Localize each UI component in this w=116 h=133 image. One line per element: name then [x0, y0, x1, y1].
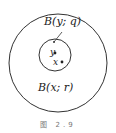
point-x-label: x: [53, 57, 58, 67]
figure-caption: 图 2.9: [0, 119, 116, 129]
point-y-label: y: [50, 47, 55, 57]
inner-ball-label: B(y; q): [44, 15, 81, 28]
outer-ball-label: B(x; r): [38, 81, 73, 94]
pointer-end-dot: [53, 41, 55, 43]
point-x-dot: [61, 61, 64, 64]
